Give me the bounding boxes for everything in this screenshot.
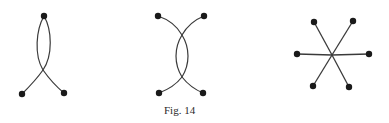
graph-spoke	[297, 54, 332, 55]
graph-c	[294, 18, 372, 90]
graph-spoke	[332, 54, 369, 55]
graph-b	[155, 13, 207, 96]
graph-vertex	[346, 84, 352, 90]
graph-vertex	[156, 90, 162, 96]
figure-caption: Fig. 14	[164, 104, 195, 116]
graph-edge	[37, 16, 64, 93]
graph-vertex	[200, 90, 206, 96]
graph-vertex	[310, 83, 316, 89]
graph-spoke	[314, 22, 332, 55]
graph-vertex	[294, 51, 300, 57]
graph-edge	[158, 16, 203, 93]
graph-a	[19, 13, 67, 97]
graph-vertex	[366, 51, 372, 57]
graph-vertex	[19, 91, 25, 97]
graph-spoke	[313, 55, 332, 86]
graph-edge	[159, 16, 204, 93]
graph-edge	[22, 16, 50, 94]
graph-vertex	[350, 18, 356, 24]
graph-vertex	[155, 13, 161, 19]
graph-vertex	[311, 19, 317, 25]
graph-vertex	[41, 13, 47, 19]
graph-spoke	[332, 21, 353, 55]
graph-vertex	[201, 13, 207, 19]
graph-spoke	[332, 55, 349, 87]
graph-vertex	[61, 90, 67, 96]
